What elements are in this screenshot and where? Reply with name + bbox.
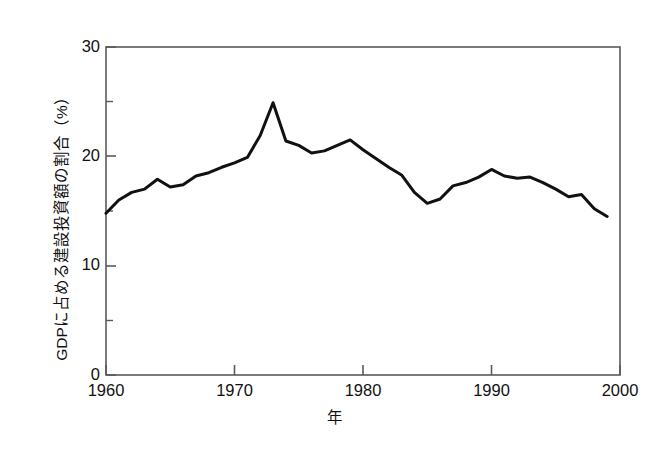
x-tick-label-1970: 1970 xyxy=(200,382,270,399)
plot-frame xyxy=(106,47,620,375)
x-axis-title: 年 xyxy=(0,405,669,427)
x-tick-label-1990: 1990 xyxy=(457,382,527,399)
x-tick-label-1960: 1960 xyxy=(71,382,141,399)
x-tick-label-group: 1960 1970 1980 1990 2000 xyxy=(0,382,669,406)
x-tick-label-2000: 2000 xyxy=(585,382,655,399)
x-tick-label-1980: 1980 xyxy=(328,382,398,399)
chart-figure: GDPに占める建設投資額の割合（%） 30 20 10 0 xyxy=(0,0,669,457)
